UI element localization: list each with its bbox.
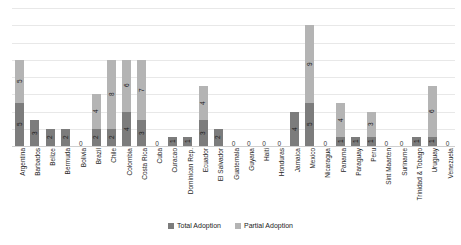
x-axis-tick: Mexico <box>302 148 317 210</box>
bar-segment-total-adoption[interactable]: 2 <box>92 129 101 146</box>
bar-segment-partial-adoption[interactable]: 4 <box>199 86 208 121</box>
bar-column[interactable]: 61 <box>425 8 440 146</box>
bar-segment-total-adoption[interactable]: 2 <box>46 129 55 146</box>
legend-item[interactable]: Total Adoption <box>168 222 221 229</box>
bar-column[interactable]: 1 <box>409 8 424 146</box>
bar-segment-total-adoption[interactable]: 1 <box>168 137 177 146</box>
x-axis-tick: Venezuela <box>440 148 455 210</box>
bar-segment-partial-adoption[interactable]: 8 <box>107 60 116 129</box>
bar-column[interactable]: 41 <box>333 8 348 146</box>
bar-column[interactable]: 2 <box>211 8 226 146</box>
bar-value-label: 3 <box>139 131 146 135</box>
bar-segment-total-adoption[interactable]: 1 <box>428 137 437 146</box>
bar-value-label: 1 <box>368 140 375 144</box>
bar-segment-partial-adoption[interactable]: 9 <box>305 25 314 103</box>
bar-segment-total-adoption[interactable]: 2 <box>61 129 70 146</box>
bar-column[interactable]: 0 <box>226 8 241 146</box>
bar-segment-total-adoption[interactable]: 1 <box>412 137 421 146</box>
bar-stack: 31 <box>367 112 376 147</box>
bar-column[interactable]: 0 <box>241 8 256 146</box>
legend-item[interactable]: Partial Adoption <box>235 222 293 229</box>
x-axis-tick-label: Honduras <box>279 148 286 176</box>
bar-column[interactable]: 2 <box>58 8 73 146</box>
bar-column[interactable]: 0 <box>379 8 394 146</box>
bar-segment-total-adoption[interactable]: 5 <box>305 103 314 146</box>
bar-value-label: 5 <box>16 123 23 127</box>
bar-segment-total-adoption[interactable]: 1 <box>367 137 376 146</box>
bar-value-label: 1 <box>337 140 344 144</box>
bar-stack: 2 <box>61 129 70 146</box>
bar-segment-total-adoption[interactable]: 3 <box>199 120 208 146</box>
bar-stack: 2 <box>214 129 223 146</box>
x-axis-tick-label: Paraguay <box>356 148 363 176</box>
bar-segment-total-adoption[interactable]: 5 <box>15 103 24 146</box>
x-axis-tick: Guyana <box>241 148 256 210</box>
bar-stack: 42 <box>92 94 101 146</box>
bar-segment-partial-adoption[interactable]: 5 <box>15 60 24 103</box>
bar-stack: 3 <box>30 120 39 146</box>
bar-value-label: 6 <box>123 84 130 88</box>
bar-column[interactable]: 73 <box>134 8 149 146</box>
bar-value-label: 4 <box>291 127 298 131</box>
x-axis-tick: Uruguay <box>425 148 440 210</box>
bar-column[interactable]: 55 <box>12 8 27 146</box>
bar-column[interactable]: 0 <box>272 8 287 146</box>
bar-value-label: 4 <box>123 127 130 131</box>
x-axis-tick: Suriname <box>394 148 409 210</box>
bar-column[interactable]: 64 <box>119 8 134 146</box>
x-axis-tick-label: Venezuela <box>448 148 455 178</box>
bar-column[interactable]: 1 <box>180 8 195 146</box>
bar-column[interactable]: 0 <box>440 8 455 146</box>
bar-column[interactable]: 95 <box>302 8 317 146</box>
x-axis-tick-label: Dominican Rep. <box>188 148 195 194</box>
stacked-bar-chart: 553220428264730114320000495041131001610 … <box>0 0 461 245</box>
bar-segment-total-adoption[interactable]: 3 <box>30 120 39 146</box>
bar-column[interactable]: 3 <box>27 8 42 146</box>
bars-layer: 553220428264730114320000495041131001610 <box>12 8 455 146</box>
bar-column[interactable]: 0 <box>150 8 165 146</box>
bar-column[interactable]: 31 <box>363 8 378 146</box>
bar-value-label: 1 <box>353 140 360 144</box>
bar-column[interactable]: 0 <box>318 8 333 146</box>
bar-column[interactable]: 1 <box>348 8 363 146</box>
bar-stack: 64 <box>122 60 131 146</box>
bar-value-label: 6 <box>429 110 436 114</box>
bar-segment-total-adoption[interactable]: 1 <box>351 137 360 146</box>
bar-stack: 73 <box>137 60 146 146</box>
bar-value-label: 4 <box>93 110 100 114</box>
bar-column[interactable]: 43 <box>195 8 210 146</box>
bar-value-label: 8 <box>108 92 115 96</box>
bar-column[interactable]: 1 <box>165 8 180 146</box>
bar-column[interactable]: 82 <box>104 8 119 146</box>
bar-value-label: 3 <box>32 131 39 135</box>
bar-segment-total-adoption[interactable]: 1 <box>183 137 192 146</box>
bar-segment-total-adoption[interactable]: 4 <box>122 112 131 147</box>
bar-segment-total-adoption[interactable]: 2 <box>214 129 223 146</box>
bar-column[interactable]: 42 <box>88 8 103 146</box>
bar-column[interactable]: 4 <box>287 8 302 146</box>
x-axis-tick: Cuba <box>150 148 165 210</box>
bar-column[interactable]: 0 <box>394 8 409 146</box>
x-axis-tick-label: Sint Maarten <box>386 148 393 185</box>
bar-segment-total-adoption[interactable]: 4 <box>290 112 299 147</box>
bar-segment-total-adoption[interactable]: 3 <box>137 120 146 146</box>
bar-segment-total-adoption[interactable]: 1 <box>336 137 345 146</box>
bar-segment-partial-adoption[interactable]: 6 <box>122 60 131 112</box>
legend-label: Partial Adoption <box>244 222 293 229</box>
bar-segment-total-adoption[interactable]: 2 <box>107 129 116 146</box>
x-axis-tick: Costa Rica <box>134 148 149 210</box>
bar-segment-partial-adoption[interactable]: 3 <box>367 112 376 138</box>
bar-value-label: 2 <box>62 136 69 140</box>
bar-stack: 55 <box>15 60 24 146</box>
bar-column[interactable]: 0 <box>257 8 272 146</box>
bar-column[interactable]: 2 <box>43 8 58 146</box>
x-axis-tick-label: Uruguay <box>432 148 439 173</box>
bar-value-label: 2 <box>93 136 100 140</box>
bar-segment-partial-adoption[interactable]: 4 <box>336 103 345 138</box>
bar-segment-partial-adoption[interactable]: 6 <box>428 86 437 138</box>
x-axis-tick-labels: ArgentinaBarbadosBelizeBermudaBoliviaBra… <box>12 148 455 210</box>
x-axis-tick: Honduras <box>272 148 287 210</box>
bar-segment-partial-adoption[interactable]: 4 <box>92 94 101 129</box>
bar-segment-partial-adoption[interactable]: 7 <box>137 60 146 120</box>
bar-column[interactable]: 0 <box>73 8 88 146</box>
